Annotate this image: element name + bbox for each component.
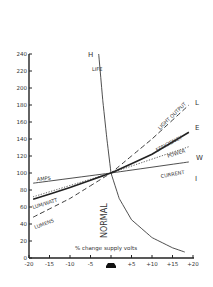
y-tick-label: 100: [17, 170, 28, 176]
power-letter-W: W: [196, 154, 203, 162]
chart: 020406080100120140160180200220240 -20-15…: [0, 0, 213, 287]
normal-label: NORMAL: [100, 203, 109, 238]
y-tick-label: 240: [17, 51, 28, 57]
light-output-label: LIGHT OUTPUT: [157, 100, 188, 131]
y-tick-label: 80: [20, 187, 27, 193]
y-tick-label: 60: [20, 204, 27, 210]
y-tick-label: 120: [17, 153, 28, 159]
x-tick-label: +15: [167, 261, 179, 267]
x-tick-label: -20: [25, 261, 34, 267]
y-tick-label: 140: [17, 136, 28, 142]
current-label: CURRENT: [160, 169, 186, 179]
y-tick-label: 180: [17, 102, 28, 108]
x-tick-label: -5: [88, 261, 94, 267]
life-label: LIFE: [92, 66, 102, 72]
efficiency-letter-E: E: [195, 124, 199, 132]
y-tick-label: 200: [17, 85, 28, 91]
life-letter-H: H: [88, 51, 93, 59]
lumens-label: LUMENS: [33, 217, 54, 230]
x-tick-label: -15: [45, 261, 54, 267]
x-tick-label: +20: [187, 261, 199, 267]
x-tick-label: +5: [127, 261, 136, 267]
y-tick-label: 220: [17, 68, 28, 74]
amps-label: AMPS: [37, 175, 51, 182]
x-axis-label: % change supply volts: [75, 245, 137, 252]
y-tick-label: 160: [17, 119, 28, 125]
y-tick-label: 40: [20, 221, 27, 227]
x-tick-label: -10: [66, 261, 75, 267]
chart-svg: 020406080100120140160180200220240 -20-15…: [0, 0, 213, 287]
y-tick-label: 20: [20, 238, 27, 244]
normal-voltage-marker-icon: [106, 263, 116, 268]
power-label: POWER: [166, 147, 186, 159]
current-letter-I: I: [195, 175, 197, 183]
x-tick-label: +10: [146, 261, 158, 267]
light-output-letter-L: L: [195, 99, 199, 107]
